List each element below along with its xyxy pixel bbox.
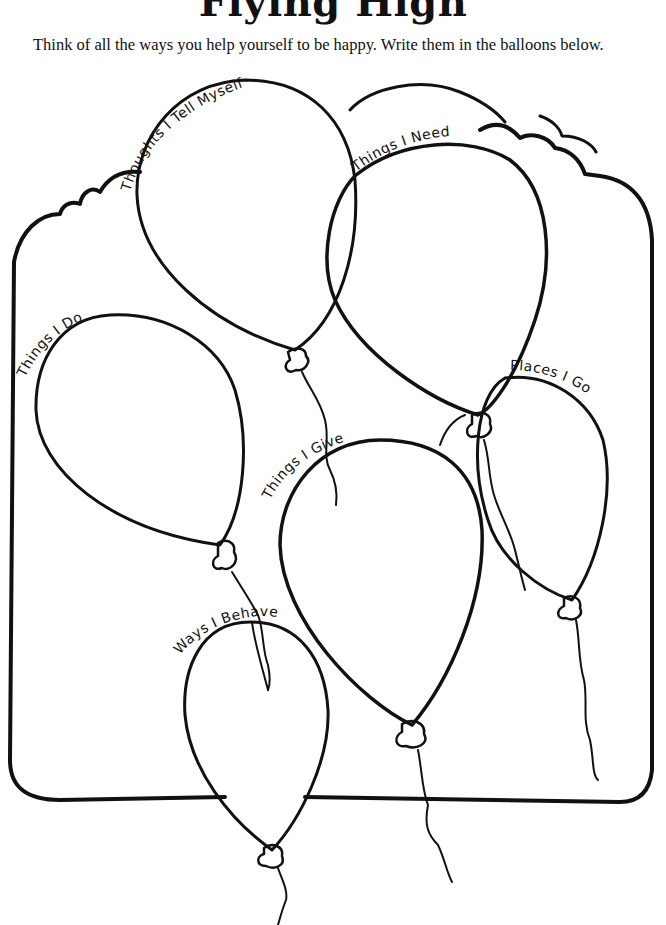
balloon-behave-string	[278, 868, 286, 925]
balloon-thoughts-knot	[286, 349, 308, 372]
balloon-places-string	[576, 620, 598, 780]
balloon-do-write-area[interactable]	[55, 345, 224, 499]
balloon-label-behave: Ways I Behave	[170, 603, 279, 657]
balloon-give-string	[418, 750, 452, 882]
balloon-need-write-area[interactable]	[360, 185, 524, 359]
balloon-label-need: Things I Need	[347, 123, 450, 175]
balloon-places-write-area[interactable]	[498, 405, 597, 569]
balloon-thoughts-write-area[interactable]	[165, 130, 339, 304]
balloon-give-write-area[interactable]	[300, 470, 469, 674]
balloon-strand	[440, 415, 465, 445]
balloon-behave-write-area[interactable]	[200, 650, 319, 804]
